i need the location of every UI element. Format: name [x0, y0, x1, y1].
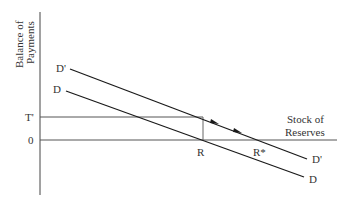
arrow-icon [233, 128, 242, 133]
x-axis-label-line2: Reserves [285, 126, 325, 138]
y-axis-label-line2: Payments [24, 21, 36, 64]
point-r-label: R [197, 146, 205, 158]
d-prime-end-label: D' [312, 153, 322, 165]
d-end-label: D [309, 173, 317, 185]
d-start-label: D [53, 83, 61, 95]
balance-of-payments-diagram: Balance of Payments Stock of Reserves T'… [0, 0, 342, 203]
x-axis-label-line1: Stock of [287, 113, 324, 125]
tick-zero: 0 [28, 134, 34, 146]
d-prime-start-label: D' [56, 62, 66, 74]
tick-t-prime: T' [25, 111, 34, 123]
d-prime-curve [70, 69, 307, 159]
d-curve [66, 91, 304, 177]
point-r-star-label: R* [253, 146, 266, 158]
